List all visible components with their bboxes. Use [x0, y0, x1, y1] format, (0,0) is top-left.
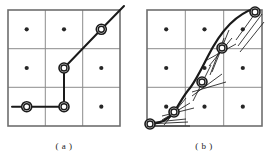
panel-b-smooth-curve	[150, 8, 256, 124]
tangent-line	[236, 8, 259, 40]
cell-dot	[241, 105, 245, 109]
figure-container: ( a ) ( b )	[0, 0, 272, 165]
tangent-line	[146, 119, 186, 123]
tangent-line	[162, 103, 190, 120]
panel-b-tangent-fans	[146, 8, 264, 126]
node-marker	[59, 63, 69, 73]
tangent-line	[238, 14, 262, 46]
node-marker	[96, 24, 106, 34]
cell-dot	[241, 66, 245, 70]
cell-dot	[164, 66, 168, 70]
cell-dot	[202, 105, 206, 109]
tangent-line	[207, 44, 236, 60]
cell-dot	[25, 66, 29, 70]
cell-dot	[202, 27, 206, 31]
panel-b-grid-border	[147, 10, 262, 126]
tangent-fan	[162, 98, 194, 125]
tangent-line	[192, 74, 222, 96]
node-marker	[145, 119, 155, 129]
tangent-line	[210, 38, 224, 75]
cell-dot	[62, 27, 66, 31]
tangent-line	[209, 38, 232, 66]
caption-panel-a: ( a )	[24, 141, 104, 151]
tangent-fan	[207, 30, 236, 75]
cell-dot	[202, 66, 206, 70]
tangent-line	[164, 98, 186, 125]
tangent-line	[240, 22, 264, 52]
panel-a-staircase-path	[12, 6, 124, 107]
panel-a	[0, 0, 136, 136]
tangent-line	[212, 30, 229, 72]
cell-dot	[164, 105, 168, 109]
tangent-line	[162, 108, 194, 116]
node-marker	[169, 107, 179, 117]
tangent-line	[192, 82, 226, 92]
tangent-fan	[236, 8, 264, 52]
panel-b-grid-lines	[147, 10, 262, 126]
node-marker	[22, 102, 32, 112]
caption-panel-b: ( b )	[164, 141, 244, 151]
panel-b-cell-dots	[164, 27, 245, 109]
tangent-line	[146, 122, 188, 124]
tangent-line	[193, 65, 211, 101]
tangent-fan	[146, 119, 190, 126]
tangent-fan	[192, 65, 226, 101]
panel-b-nodes	[145, 7, 260, 129]
node-marker	[59, 102, 69, 112]
cell-dot	[241, 27, 245, 31]
node-marker	[250, 7, 260, 17]
cell-dot	[99, 66, 103, 70]
node-marker	[197, 77, 207, 87]
node-marker	[217, 43, 227, 53]
cell-dot	[164, 27, 168, 31]
cell-dot	[25, 27, 29, 31]
panel-a-canvas	[0, 0, 136, 136]
cell-dot	[99, 105, 103, 109]
